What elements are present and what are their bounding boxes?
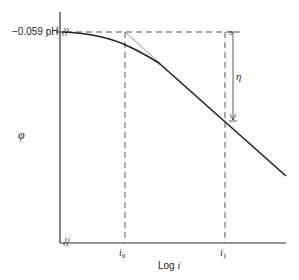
x-axis-label: Log i [158,261,180,271]
i1-sub: 1 [223,252,227,260]
polarization-curve [62,32,286,176]
x-axis-label-prefix: Log [158,260,177,271]
axis-break-bottom-icon [64,238,70,246]
diagram-canvas [0,0,299,280]
y-tick-label: −0.059 pH [12,27,58,37]
y-axis-label: φ [18,130,25,140]
eta-label: η [236,71,241,81]
x-tick-label-i0: i0 [119,248,125,259]
i0-sub: 0 [122,252,126,260]
x-axis-label-var: i [177,260,180,271]
x-tick-label-i1: i1 [220,248,226,259]
